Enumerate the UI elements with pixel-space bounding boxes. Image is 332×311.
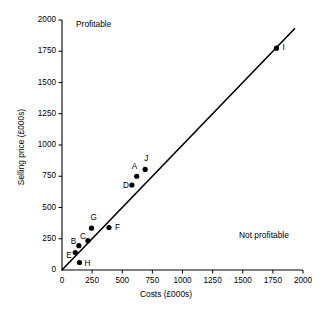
point-label-i: I	[282, 44, 284, 52]
profitable-region-label: Profitable	[76, 19, 111, 29]
y-tick-label: 250	[18, 235, 56, 243]
data-point-i[interactable]	[274, 46, 279, 51]
y-tick-label: 0	[18, 266, 56, 274]
y-tick-label: 2000	[18, 16, 56, 24]
data-point-d[interactable]	[129, 182, 134, 187]
data-point-a[interactable]	[134, 174, 139, 179]
not-profitable-region-label: Not profitable	[239, 230, 289, 240]
point-label-b: B	[71, 238, 76, 246]
x-tick-label: 750	[146, 277, 160, 285]
point-label-c: C	[80, 233, 86, 241]
x-tick-label: 1500	[234, 277, 252, 285]
point-label-f: F	[115, 224, 120, 232]
data-point-e[interactable]	[73, 250, 78, 255]
data-point-f[interactable]	[106, 225, 111, 230]
scatter-chart: 0250500750100012501500175020000250500750…	[0, 0, 332, 311]
data-point-c[interactable]	[85, 238, 90, 243]
x-tick-label: 1250	[204, 277, 222, 285]
point-label-a: A	[132, 163, 137, 171]
point-label-e: E	[66, 252, 71, 260]
x-tick-label: 1750	[264, 277, 282, 285]
x-tick-label: 0	[60, 277, 65, 285]
y-axis-title-wrapper: Selling price (£000s)	[10, 62, 28, 232]
point-label-g: G	[91, 214, 97, 222]
x-tick-label: 1000	[173, 277, 191, 285]
data-point-h[interactable]	[77, 260, 82, 265]
y-axis-title: Selling price (£000s)	[16, 109, 26, 185]
point-label-d: D	[123, 182, 129, 190]
y-tick-label: 1750	[18, 47, 56, 55]
x-tick-label: 500	[115, 277, 129, 285]
point-label-j: J	[144, 155, 148, 163]
point-label-h: H	[84, 260, 90, 268]
x-axis-title: Costs (£000s)	[0, 289, 332, 299]
x-tick-label: 250	[85, 277, 99, 285]
data-point-j[interactable]	[143, 167, 148, 172]
data-point-g[interactable]	[89, 226, 94, 231]
x-tick-label: 2000	[294, 277, 312, 285]
data-point-b[interactable]	[76, 243, 81, 248]
